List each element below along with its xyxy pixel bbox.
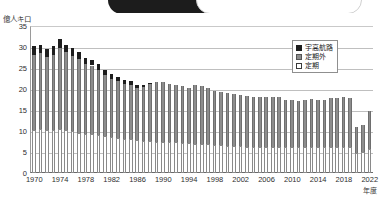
bar-segment: [239, 146, 243, 173]
bar-segment: [264, 147, 268, 173]
bar-segment: [45, 57, 49, 130]
bar-segment: [103, 136, 107, 173]
bar-segment: [52, 46, 56, 54]
y-tick-30: 30: [19, 43, 27, 52]
bar-segment: [193, 144, 197, 173]
bar-segment: [264, 97, 268, 147]
toolbar-pill-light[interactable]: [196, 0, 362, 13]
y-tick-5: 5: [23, 148, 27, 157]
legend-swatch-icon: [296, 63, 302, 69]
legend-label: 定期外: [305, 52, 326, 61]
x-tick-1986: 1986: [129, 175, 146, 184]
bar-segment: [316, 100, 320, 147]
bar-segment: [310, 147, 314, 173]
bar-segment: [181, 86, 185, 143]
bar-segment: [284, 100, 288, 147]
bar-segment: [329, 98, 333, 147]
bar-segment: [258, 97, 262, 147]
bar-segment: [32, 55, 36, 130]
bar-segment: [45, 130, 49, 173]
bar-segment: [116, 138, 120, 173]
bar-segment: [213, 145, 217, 173]
bar-segment: [168, 142, 172, 173]
bar-segment: [71, 48, 75, 56]
legend-swatch-icon: [296, 45, 302, 51]
y-axis-tick-labels: 05101520253035: [0, 26, 30, 173]
legend-label: 定期: [305, 61, 319, 70]
x-tick-2014: 2014: [310, 175, 327, 184]
bar-segment: [90, 134, 94, 173]
bar-segment: [52, 130, 56, 173]
bar-segment: [361, 152, 365, 173]
bar-segment: [116, 77, 120, 81]
bar-segment: [168, 84, 172, 142]
bar-segment: [213, 91, 217, 145]
bar-segment: [245, 147, 249, 173]
bar-segment: [64, 45, 68, 53]
bar-segment: [329, 147, 333, 173]
bar-segment: [148, 84, 152, 141]
bar-segment: [271, 97, 275, 147]
bar-segment: [181, 143, 185, 173]
bar-segment: [161, 142, 165, 173]
x-tick-2010: 2010: [284, 175, 301, 184]
bar-segment: [187, 143, 191, 173]
bar-segment: [148, 83, 152, 84]
y-tick-15: 15: [19, 106, 27, 115]
bar-segment: [142, 87, 146, 140]
bar-segment: [303, 147, 307, 173]
bar-segment: [290, 147, 294, 173]
chart-legend: 宇高航路定期外定期: [292, 40, 338, 73]
cropped-toolbar: [0, 0, 380, 13]
bar-segment: [245, 96, 249, 146]
bar-segment: [219, 145, 223, 173]
bar-segment: [148, 141, 152, 173]
bar-segment: [290, 100, 294, 147]
bar-segment: [277, 97, 281, 146]
bar-segment: [77, 133, 81, 173]
x-tick-1982: 1982: [103, 175, 120, 184]
y-tick-25: 25: [19, 64, 27, 73]
bar-segment: [110, 74, 114, 79]
bar-segment: [342, 97, 346, 147]
bar-segment: [206, 88, 210, 144]
bar-segment: [200, 144, 204, 173]
bar-segment: [32, 46, 36, 54]
bar-segment: [355, 153, 359, 173]
x-axis-tick-labels: 1970197419781982198619901994199820022006…: [30, 175, 373, 189]
x-tick-2006: 2006: [258, 175, 275, 184]
bar-segment: [84, 64, 88, 133]
bar-segment: [45, 49, 49, 57]
x-tick-1994: 1994: [181, 175, 198, 184]
bar-segment: [335, 147, 339, 173]
bar-segment: [232, 94, 236, 146]
bar-segment: [206, 144, 210, 173]
bar-segment: [90, 66, 94, 135]
bar-segment: [252, 97, 256, 147]
bar-segment: [135, 85, 139, 88]
y-tick-10: 10: [19, 127, 27, 136]
x-tick-2022: 2022: [361, 175, 378, 184]
bar-segment: [58, 39, 62, 48]
bar-segment: [64, 52, 68, 130]
bar-segment: [39, 45, 43, 54]
stacked-bar-chart: 億人キロ 05101520253035 19701974197819821986…: [0, 13, 380, 213]
bar-segment: [71, 131, 75, 173]
x-tick-1990: 1990: [155, 175, 172, 184]
bar-segment: [103, 70, 107, 75]
bar-segment: [142, 85, 146, 88]
bar-segment: [368, 111, 372, 149]
bar-segment: [323, 147, 327, 173]
bar-segment: [174, 85, 178, 142]
bar-segment: [77, 59, 81, 133]
bar-segment: [123, 139, 127, 173]
bar-segment: [90, 60, 94, 66]
bar-segment: [335, 98, 339, 147]
bar-segment: [239, 95, 243, 146]
bar-segment: [316, 147, 320, 173]
bar-segment: [129, 81, 133, 84]
x-tick-1998: 1998: [207, 175, 224, 184]
bar-segment: [277, 147, 281, 173]
bar-segment: [129, 139, 133, 173]
bar-segment: [123, 80, 127, 84]
